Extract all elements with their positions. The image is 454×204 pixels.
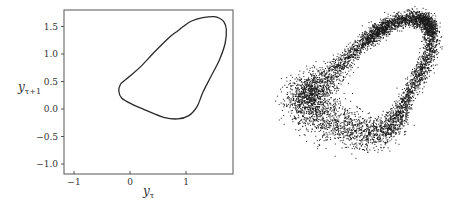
y-tick-label: 0.5 [44,77,59,87]
x-axis-label: yτ [142,184,155,200]
figure-canvas: −1.0−0.50.00.51.01.5 −101 yτ+1 yτ [0,0,454,204]
x-tick-label: 0 [127,177,133,187]
x-tick-label: −1 [67,177,80,187]
line-plot-panel: −1.0−0.50.00.51.01.5 −101 yτ+1 yτ [17,10,233,200]
x-tick-label: 1 [183,177,189,187]
y-tick-label: 1.5 [44,22,59,32]
plot-frame [64,10,233,174]
orbit-curve [119,17,227,119]
y-tick-label: 1.0 [44,49,59,59]
y-axis-label: yτ+1 [17,80,41,96]
y-tick-label: −1.0 [36,159,58,169]
y-tick-label: 0.0 [44,104,59,114]
figure: −1.0−0.50.00.51.01.5 −101 yτ+1 yτ [0,0,454,204]
y-tick-label: −0.5 [36,132,58,142]
scatter-plot-panel [275,6,442,159]
x-axis-ticks: −101 [67,171,189,187]
